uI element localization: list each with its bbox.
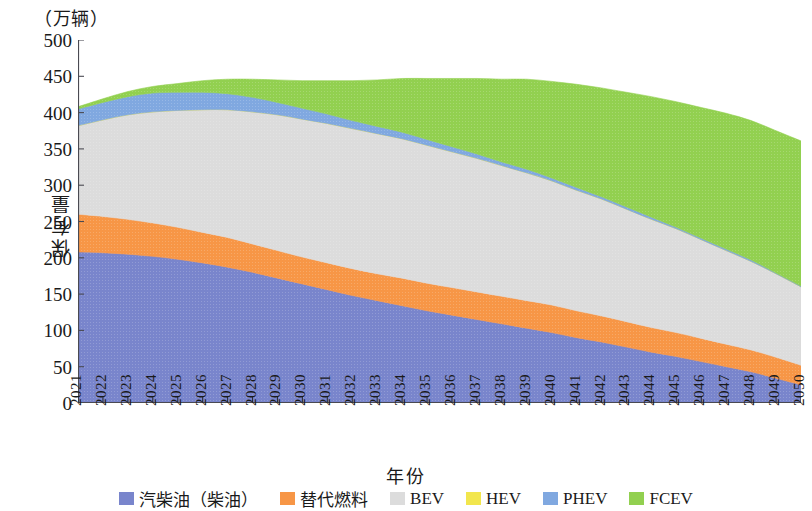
legend-label-fcev: FCEV bbox=[649, 489, 692, 509]
x-tick-label: 2047 bbox=[717, 374, 732, 406]
x-tick-label: 2031 bbox=[318, 374, 333, 406]
y-axis-tick-labels: 500450400350300250200150100500 bbox=[24, 40, 72, 403]
legend-swatch-fcev bbox=[629, 492, 644, 505]
x-tick-label: 2024 bbox=[144, 374, 159, 406]
legend-label-bev: BEV bbox=[410, 489, 444, 509]
legend-item-alt_fuel[interactable]: 替代燃料 bbox=[280, 486, 368, 511]
y-tick-label: 150 bbox=[28, 285, 72, 304]
y-tick-label: 500 bbox=[28, 31, 72, 50]
legend-label-phev: PHEV bbox=[563, 489, 607, 509]
plot-area bbox=[78, 40, 801, 403]
legend-label-alt_fuel: 替代燃料 bbox=[300, 486, 368, 511]
x-tick-label: 2048 bbox=[742, 374, 757, 406]
x-tick-label: 2044 bbox=[642, 374, 657, 406]
x-tick-label: 2023 bbox=[119, 374, 134, 406]
x-tick-label: 2022 bbox=[94, 374, 109, 406]
y-tick-label: 250 bbox=[28, 212, 72, 231]
x-tick-label: 2033 bbox=[368, 374, 383, 406]
x-axis-tick-labels: 2021202220232024202520262027202820292030… bbox=[78, 406, 801, 464]
x-tick-label: 2025 bbox=[169, 374, 184, 406]
legend-item-hev[interactable]: HEV bbox=[466, 489, 521, 509]
x-tick-label: 2050 bbox=[792, 374, 807, 406]
y-tick-label: 100 bbox=[28, 321, 72, 340]
y-tick-label: 50 bbox=[28, 357, 72, 376]
plot-svg bbox=[78, 40, 801, 403]
legend-swatch-hev bbox=[466, 492, 481, 505]
x-tick-label: 2032 bbox=[343, 374, 358, 406]
x-tick-label: 2026 bbox=[194, 374, 209, 406]
chart-legend: 汽柴油（柴油）替代燃料BEVHEVPHEVFCEV bbox=[0, 486, 812, 511]
x-tick-label: 2036 bbox=[443, 374, 458, 406]
legend-label-hev: HEV bbox=[486, 489, 521, 509]
legend-item-bev[interactable]: BEV bbox=[390, 489, 444, 509]
y-tick-label: 200 bbox=[28, 248, 72, 267]
x-tick-label: 2042 bbox=[593, 374, 608, 406]
y-tick-label: 0 bbox=[28, 394, 72, 413]
x-tick-label: 2043 bbox=[617, 374, 632, 406]
x-tick-label: 2038 bbox=[493, 374, 508, 406]
x-tick-label: 2039 bbox=[518, 374, 533, 406]
stacked-area-chart-figure: （万辆） 保有量 500450400350300250200150100500 … bbox=[0, 0, 812, 511]
legend-label-gasoline_diesel: 汽柴油（柴油） bbox=[139, 486, 258, 511]
x-tick-label: 2035 bbox=[418, 374, 433, 406]
x-tick-label: 2049 bbox=[767, 374, 782, 406]
y-tick-label: 350 bbox=[28, 139, 72, 158]
legend-swatch-phev bbox=[543, 492, 558, 505]
legend-item-fcev[interactable]: FCEV bbox=[629, 489, 692, 509]
x-tick-label: 2037 bbox=[468, 374, 483, 406]
y-axis-unit-caption: （万辆） bbox=[34, 4, 108, 30]
y-tick-label: 300 bbox=[28, 176, 72, 195]
legend-item-phev[interactable]: PHEV bbox=[543, 489, 607, 509]
x-tick-label: 2029 bbox=[268, 374, 283, 406]
legend-item-gasoline_diesel[interactable]: 汽柴油（柴油） bbox=[119, 486, 258, 511]
x-tick-label: 2034 bbox=[393, 374, 408, 406]
x-tick-label: 2021 bbox=[69, 374, 84, 406]
legend-swatch-alt_fuel bbox=[280, 492, 295, 505]
y-tick-label: 450 bbox=[28, 67, 72, 86]
x-tick-label: 2028 bbox=[244, 374, 259, 406]
x-tick-label: 2046 bbox=[692, 374, 707, 406]
x-tick-label: 2041 bbox=[568, 374, 583, 406]
x-tick-label: 2030 bbox=[293, 374, 308, 406]
x-tick-label: 2045 bbox=[667, 374, 682, 406]
x-tick-label: 2040 bbox=[543, 374, 558, 406]
legend-swatch-gasoline_diesel bbox=[119, 492, 134, 505]
y-tick-label: 400 bbox=[28, 103, 72, 122]
x-axis-title: 年份 bbox=[0, 462, 812, 488]
x-tick-label: 2027 bbox=[219, 374, 234, 406]
legend-swatch-bev bbox=[390, 492, 405, 505]
